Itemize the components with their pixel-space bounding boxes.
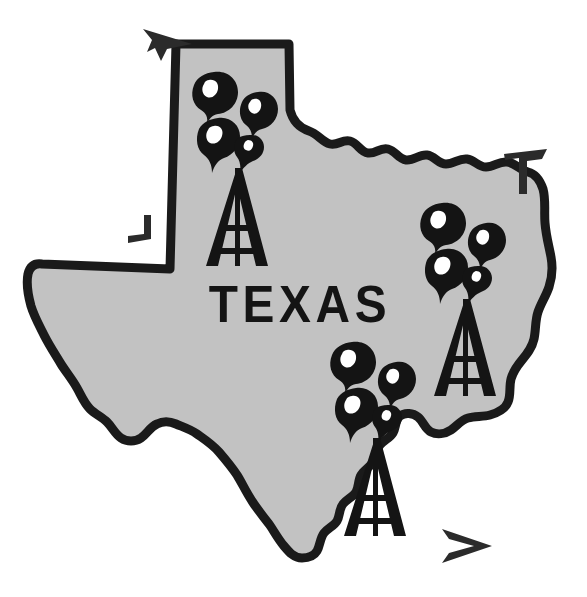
state-name-label: TEXAS	[209, 275, 391, 333]
texas-map-graphic: TEXAS	[0, 0, 587, 597]
texas-oil-map-illustration: TEXAS	[0, 0, 587, 597]
crop-mark-bottom-right	[442, 529, 492, 563]
crop-mark-mid-left	[128, 215, 151, 243]
